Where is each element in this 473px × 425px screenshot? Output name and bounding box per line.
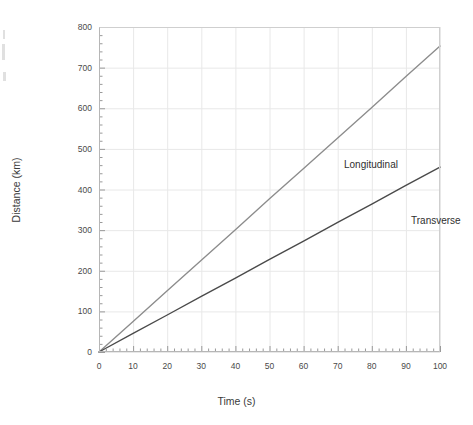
x-tick-label: 70 — [333, 362, 342, 371]
x-tick-label: 30 — [197, 362, 206, 371]
series-annotation-longitudinal: Longitudinal — [344, 160, 398, 170]
x-tick-label: 60 — [299, 362, 308, 371]
series-annotation-transverse: Transverse — [411, 216, 461, 226]
artifact-mark-3 — [3, 72, 6, 81]
y-axis-title: Distance (km) — [10, 158, 22, 223]
y-tick-label: 700 — [62, 63, 92, 72]
x-tick-label: 0 — [97, 362, 102, 371]
plot-area: Longitudinal Transverse — [99, 27, 440, 352]
x-tick-label: 20 — [162, 362, 171, 371]
y-tick-label: 100 — [62, 307, 92, 316]
x-tick-label: 40 — [231, 362, 240, 371]
figure-canvas: Longitudinal Transverse 0100200300400500… — [0, 0, 473, 425]
y-tick-label: 300 — [62, 226, 92, 235]
x-tick-label: 10 — [128, 362, 137, 371]
axis-ticks — [99, 27, 440, 352]
x-tick-label: 80 — [367, 362, 376, 371]
clipped-edge-artifact — [0, 30, 7, 82]
artifact-mark-2 — [2, 44, 5, 60]
artifact-mark-1 — [3, 30, 5, 39]
y-tick-label: 600 — [62, 104, 92, 113]
y-tick-label: 500 — [62, 145, 92, 154]
x-tick-label: 90 — [401, 362, 410, 371]
x-tick-label: 50 — [265, 362, 274, 371]
y-tick-label: 200 — [62, 267, 92, 276]
x-tick-label: 100 — [433, 362, 447, 371]
y-tick-label: 400 — [62, 185, 92, 194]
y-tick-label: 800 — [62, 23, 92, 32]
y-tick-label: 0 — [62, 348, 92, 357]
x-axis-title: Time (s) — [0, 395, 473, 407]
